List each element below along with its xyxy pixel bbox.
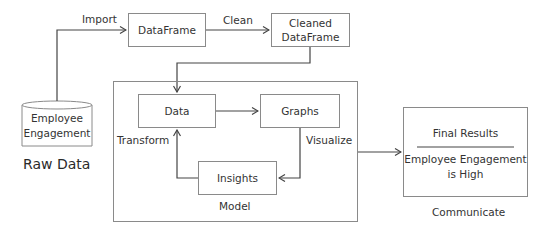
- final-results-line1: Employee Engagement: [403, 152, 528, 167]
- insights-label: Insights: [217, 171, 258, 185]
- final-results-body: Employee Engagement is High: [403, 152, 528, 182]
- transform-label: Transform: [117, 134, 169, 146]
- visualize-label: Visualize: [306, 134, 352, 146]
- dataframe-label: DataFrame: [138, 23, 196, 37]
- data-label: Data: [164, 104, 189, 118]
- communicate-label: Communicate: [432, 206, 505, 218]
- cleaned-dataframe-line1: Cleaned: [289, 16, 332, 30]
- final-results-title: Final Results: [403, 127, 528, 139]
- clean-label: Clean: [223, 14, 253, 26]
- data-node: Data: [138, 94, 216, 128]
- graphs-node: Graphs: [260, 94, 340, 128]
- cleaned-dataframe-node: Cleaned DataFrame: [271, 13, 350, 47]
- raw-source-node: Employee Engagement: [22, 111, 92, 141]
- raw-data-label: Raw Data: [23, 156, 90, 172]
- graphs-label: Graphs: [281, 104, 319, 118]
- import-label: Import: [82, 13, 117, 25]
- raw-source-line2: Engagement: [22, 126, 92, 141]
- data-science-workflow-diagram: Employee Engagement Raw Data Import Data…: [0, 0, 546, 233]
- dataframe-node: DataFrame: [128, 13, 206, 47]
- cleaned-dataframe-line2: DataFrame: [282, 30, 340, 44]
- final-results-line2: is High: [403, 167, 528, 182]
- raw-source-line1: Employee: [22, 111, 92, 126]
- model-label: Model: [219, 200, 251, 212]
- insights-node: Insights: [198, 161, 277, 195]
